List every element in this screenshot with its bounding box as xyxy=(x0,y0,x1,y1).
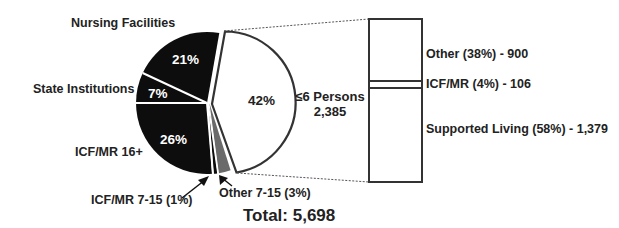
six-persons-value: 2,385 xyxy=(290,104,370,119)
label-icf-mr-7-15: ICF/MR 7-15 (1%) xyxy=(91,193,192,207)
label-state-institutions: State Institutions xyxy=(33,82,134,96)
bar-label-other: Other (38%) - 900 xyxy=(426,47,528,61)
label-icf-mr-16-plus: ICF/MR 16+ xyxy=(75,145,143,159)
label-other-7-15: Other 7-15 (3%) xyxy=(219,186,311,200)
pct-nursing: 21% xyxy=(172,52,199,67)
label-six-persons: ≤6 Persons 2,385 xyxy=(290,89,370,119)
six-persons-title: ≤6 Persons xyxy=(290,89,370,104)
connector-bottom xyxy=(237,173,369,182)
breakdown-bar xyxy=(369,19,422,182)
label-nursing-facilities: Nursing Facilities xyxy=(71,16,175,30)
total-label: Total: 5,698 xyxy=(243,206,335,226)
bar-label-icf-mr: ICF/MR (4%) - 106 xyxy=(426,77,531,91)
pct-state: 7% xyxy=(148,86,168,101)
bar-label-supported-living: Supported Living (58%) - 1,379 xyxy=(426,122,608,136)
pct-icf-16: 26% xyxy=(160,132,187,147)
connector-top xyxy=(224,19,369,31)
pct-six-persons: 42% xyxy=(248,93,275,108)
